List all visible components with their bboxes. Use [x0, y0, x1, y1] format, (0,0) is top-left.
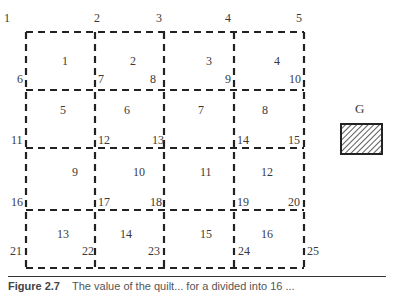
- legend-label: G: [355, 101, 364, 117]
- node-label-18: 18: [150, 196, 162, 208]
- node-label-11: 11: [11, 134, 23, 146]
- caption-text: The value of the quilt... for a divided …: [72, 280, 295, 292]
- node-label-5: 5: [296, 12, 302, 24]
- node-label-3: 3: [156, 12, 162, 24]
- cell-label-c1: 1: [62, 55, 68, 67]
- node-label-1: 1: [4, 12, 10, 24]
- node-label-24: 24: [238, 245, 250, 257]
- node-label-2: 2: [94, 12, 100, 24]
- node-label-9: 9: [225, 73, 231, 85]
- node-label-17: 17: [98, 196, 110, 208]
- cell-label-c15: 15: [200, 228, 212, 240]
- legend-swatch-hatched: [341, 124, 382, 154]
- node-label-25: 25: [307, 245, 319, 257]
- cell-label-c8: 8: [262, 104, 268, 116]
- node-label-4: 4: [225, 12, 231, 24]
- node-label-13: 13: [152, 134, 164, 146]
- cell-label-c2: 2: [130, 55, 136, 67]
- cell-label-c14: 14: [120, 228, 132, 240]
- node-label-8: 8: [150, 73, 156, 85]
- caption-rule: [8, 276, 386, 277]
- node-label-21: 21: [10, 245, 22, 257]
- cell-label-c4: 4: [274, 55, 280, 67]
- figure-caption: Figure 2.7 The value of the quilt... for…: [8, 280, 295, 292]
- node-label-16: 16: [11, 196, 23, 208]
- node-label-19: 19: [237, 196, 249, 208]
- node-label-7: 7: [98, 73, 104, 85]
- cell-label-c16: 16: [261, 228, 273, 240]
- cell-label-c11: 11: [200, 166, 212, 178]
- cell-label-c9: 9: [72, 166, 78, 178]
- node-label-10: 10: [289, 73, 301, 85]
- cell-label-c6: 6: [124, 104, 130, 116]
- cell-label-c7: 7: [198, 104, 204, 116]
- caption-prefix: Figure 2.7: [8, 280, 60, 292]
- node-label-22: 22: [82, 245, 94, 257]
- cell-label-c3: 3: [206, 55, 212, 67]
- cell-label-c10: 10: [133, 166, 145, 178]
- node-label-14: 14: [237, 134, 249, 146]
- node-label-15: 15: [288, 134, 300, 146]
- cell-label-c13: 13: [57, 228, 69, 240]
- node-label-20: 20: [288, 196, 300, 208]
- node-label-12: 12: [98, 134, 110, 146]
- node-label-23: 23: [148, 245, 160, 257]
- node-label-6: 6: [17, 73, 23, 85]
- cell-label-c12: 12: [261, 166, 273, 178]
- cell-label-c5: 5: [60, 104, 66, 116]
